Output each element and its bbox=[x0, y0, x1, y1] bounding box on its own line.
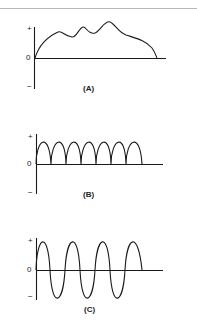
panel-a-minus-label: − bbox=[27, 82, 32, 91]
panel-b bbox=[36, 134, 163, 194]
panel-c-zero-label: 0 bbox=[27, 265, 31, 274]
panel-c bbox=[36, 238, 163, 300]
panel-b-zero-label: 0 bbox=[27, 159, 31, 168]
panel-c-minus-label: − bbox=[28, 292, 33, 301]
panel-a-waveform bbox=[35, 22, 157, 58]
panel-a-caption: (A) bbox=[83, 84, 94, 93]
panel-a-plus-label: + bbox=[27, 24, 32, 33]
panel-c-caption: (C) bbox=[84, 305, 95, 314]
panel-b-minus-label: − bbox=[28, 188, 33, 197]
panel-a-zero-label: 0 bbox=[26, 53, 30, 62]
panel-a bbox=[34, 22, 166, 89]
panel-b-plus-label: + bbox=[28, 132, 33, 141]
panel-c-plus-label: + bbox=[28, 236, 33, 245]
panel-b-waveform bbox=[36, 142, 142, 164]
panel-b-caption: (B) bbox=[83, 190, 94, 199]
